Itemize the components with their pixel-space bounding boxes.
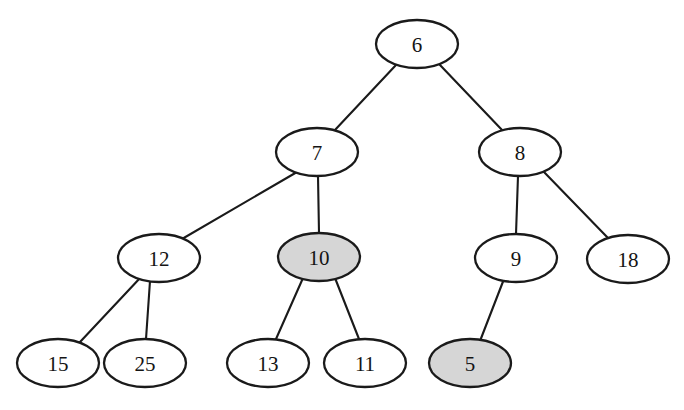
node-label: 8 [515, 141, 526, 165]
node-label: 25 [135, 352, 156, 376]
tree-node[interactable]: 7 [276, 128, 358, 176]
tree-node[interactable]: 12 [118, 234, 200, 282]
tree-edge [318, 176, 319, 233]
tree-node[interactable]: 15 [17, 339, 99, 387]
node-label: 18 [618, 248, 639, 272]
node-label: 15 [48, 352, 69, 376]
tree-node[interactable]: 9 [475, 234, 557, 282]
node-label: 13 [258, 352, 279, 376]
tree-node[interactable]: 6 [376, 20, 458, 68]
tree-node[interactable]: 8 [479, 128, 561, 176]
tree-node[interactable]: 25 [104, 339, 186, 387]
node-label: 10 [309, 246, 330, 270]
tree-node[interactable]: 10 [278, 233, 360, 281]
node-label: 6 [412, 33, 423, 57]
tree-node[interactable]: 11 [324, 339, 406, 387]
tree-node[interactable]: 18 [587, 235, 669, 283]
node-label: 11 [355, 352, 375, 376]
node-label: 7 [312, 141, 323, 165]
node-label: 9 [511, 247, 522, 271]
tree-node[interactable]: 13 [227, 339, 309, 387]
node-label: 12 [149, 247, 170, 271]
node-label: 5 [465, 352, 476, 376]
tree-diagram: 6781210918152513115 [0, 0, 684, 410]
tree-node[interactable]: 5 [429, 339, 511, 387]
